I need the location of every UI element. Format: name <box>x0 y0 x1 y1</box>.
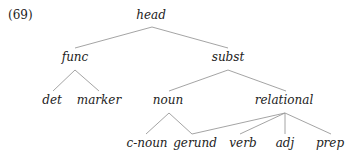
edge-subst-relational <box>228 70 286 91</box>
edge-noun-gerund <box>169 113 192 134</box>
edge-func-det <box>53 70 75 91</box>
node-gerund: gerund <box>173 137 217 149</box>
edge-relational-prep <box>285 113 331 134</box>
node-marker: marker <box>77 94 121 106</box>
edge-head-subst <box>152 27 228 48</box>
node-noun: noun <box>153 94 183 106</box>
node-c-noun: c-noun <box>126 137 167 149</box>
node-verb: verb <box>229 137 256 149</box>
edge-subst-noun <box>169 70 228 91</box>
edge-relational-verb <box>240 113 285 134</box>
edge-relational-gerund <box>192 113 285 134</box>
node-subst: subst <box>212 51 245 63</box>
tree-edges <box>0 0 351 154</box>
edge-noun-cnoun <box>146 113 169 134</box>
node-det: det <box>42 94 62 106</box>
node-func: func <box>62 51 89 63</box>
node-head: head <box>136 9 166 21</box>
node-adj: adj <box>276 137 295 149</box>
node-prep: prep <box>316 137 344 149</box>
edge-func-marker <box>75 70 99 91</box>
edge-head-func <box>75 27 152 48</box>
node-relational: relational <box>255 94 313 106</box>
